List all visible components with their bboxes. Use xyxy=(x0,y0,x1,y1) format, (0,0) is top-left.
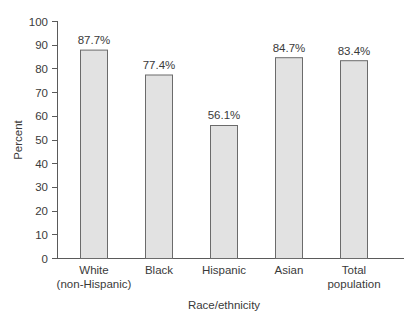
data-label-black: 77.4% xyxy=(143,59,176,71)
y-tick-label-40: 40 xyxy=(35,158,48,170)
bar-hispanic[interactable] xyxy=(211,126,238,259)
bar-chart: 100 90 80 70 60 50 40 30 20 10 0 Percent xyxy=(0,0,416,319)
y-tick-label-30: 30 xyxy=(35,181,48,193)
data-label-white-non-hispanic: 87.7% xyxy=(78,34,111,46)
bar-black[interactable] xyxy=(146,75,173,259)
chart-canvas: 100 90 80 70 60 50 40 30 20 10 0 Percent xyxy=(0,0,416,319)
data-label-asian: 84.7% xyxy=(273,42,306,54)
cat-label-total-line1: Total xyxy=(342,264,366,276)
cat-label-total-line2: population xyxy=(327,278,380,290)
y-tick-label-20: 20 xyxy=(35,205,48,217)
cat-label-asian: Asian xyxy=(275,264,304,276)
x-axis-category-labels: White (non-Hispanic) Black Hispanic Asia… xyxy=(57,264,381,290)
cat-label-white-line2: (non-Hispanic) xyxy=(57,278,132,290)
data-labels-group: 87.7% 77.4% 56.1% 84.7% 83.4% xyxy=(78,34,371,121)
y-tick-label-80: 80 xyxy=(35,63,48,75)
y-axis-title: Percent xyxy=(12,119,24,159)
bar-total-population[interactable] xyxy=(341,61,368,259)
bar-white-non-hispanic[interactable] xyxy=(81,50,108,258)
y-axis-ticks: 100 90 80 70 60 50 40 30 20 10 0 xyxy=(29,16,58,265)
y-tick-label-50: 50 xyxy=(35,134,48,146)
y-tick-label-70: 70 xyxy=(35,87,48,99)
y-tick-label-90: 90 xyxy=(35,39,48,51)
y-tick-label-0: 0 xyxy=(42,253,48,265)
data-label-total-population: 83.4% xyxy=(338,45,371,57)
y-tick-label-10: 10 xyxy=(35,229,48,241)
y-tick-label-100: 100 xyxy=(29,16,48,28)
bar-asian[interactable] xyxy=(276,58,303,259)
bars-group xyxy=(81,50,368,258)
cat-label-white-line1: White xyxy=(79,264,108,276)
x-axis-title: Race/ethnicity xyxy=(188,299,260,311)
cat-label-black: Black xyxy=(145,264,173,276)
y-tick-label-60: 60 xyxy=(35,110,48,122)
cat-label-hispanic: Hispanic xyxy=(202,264,246,276)
data-label-hispanic: 56.1% xyxy=(208,109,241,121)
